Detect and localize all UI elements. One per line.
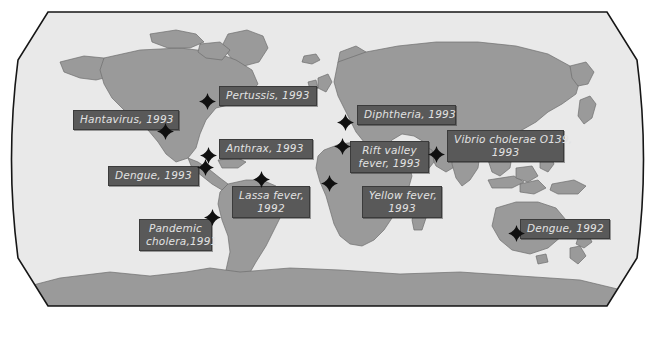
outbreak-marker[interactable] (428, 146, 445, 163)
outbreak-marker[interactable] (199, 93, 216, 110)
outbreak-label-dengue-1992[interactable]: Dengue, 1992 (520, 219, 610, 239)
world-outbreak-map: Hantavirus, 1993 Pertussis, 1993 Dengue,… (0, 0, 655, 355)
outbreak-label-pertussis-1993[interactable]: Pertussis, 1993 (219, 86, 317, 106)
outbreak-label-dengue-1993[interactable]: Dengue, 1993 (108, 166, 199, 186)
label-line-2: 1992 (257, 202, 285, 214)
outbreak-marker[interactable] (253, 171, 270, 188)
label-line-1: Rift valley (362, 144, 417, 156)
outbreak-label-anthrax-1993[interactable]: Anthrax, 1993 (219, 139, 313, 159)
label-line-2: fever, 1993 (359, 157, 421, 169)
label-line-1: Vibrio cholerae O139, (454, 133, 572, 145)
diamond-star-icon (321, 175, 338, 192)
outbreak-marker[interactable] (204, 209, 221, 226)
outbreak-label-lassa-fever-1992[interactable]: Lassa fever,1992 (232, 186, 310, 218)
diamond-star-icon (253, 171, 270, 188)
diamond-star-icon (199, 93, 216, 110)
land-tasmania (536, 254, 548, 264)
outbreak-marker[interactable] (321, 175, 338, 192)
label-line-1: Lassa fever, (239, 189, 304, 201)
outbreak-marker[interactable] (508, 225, 525, 242)
diamond-star-icon (337, 114, 354, 131)
label-line-2: cholera,1991 (146, 235, 217, 247)
diamond-star-icon (204, 209, 221, 226)
outbreak-marker[interactable] (157, 123, 174, 140)
outbreak-label-yellow-fever-1993[interactable]: Yellow fever,1993 (362, 186, 442, 218)
label-line-2: 1993 (492, 146, 520, 158)
outbreak-marker[interactable] (200, 147, 217, 164)
outbreak-marker[interactable] (334, 138, 351, 155)
diamond-star-icon (428, 146, 445, 163)
diamond-star-icon (334, 138, 351, 155)
diamond-star-icon (508, 225, 525, 242)
outbreak-label-diphtheria-1993[interactable]: Diphtheria, 1993 (357, 105, 456, 125)
label-line-1: Yellow fever, (369, 189, 437, 201)
label-line-2: 1993 (388, 202, 416, 214)
outbreak-marker[interactable] (337, 114, 354, 131)
label-line-1: Pandemic (149, 222, 202, 234)
outbreak-label-rift-valley-fever-1993[interactable]: Rift valleyfever, 1993 (350, 141, 429, 173)
diamond-star-icon (157, 123, 174, 140)
outbreak-label-pandemic-cholera-1991[interactable]: Pandemiccholera,1991 (139, 219, 212, 251)
outbreak-label-vibrio-cholerae-o139-1993[interactable]: Vibrio cholerae O139,1993 (447, 130, 564, 162)
diamond-star-icon (200, 147, 217, 164)
